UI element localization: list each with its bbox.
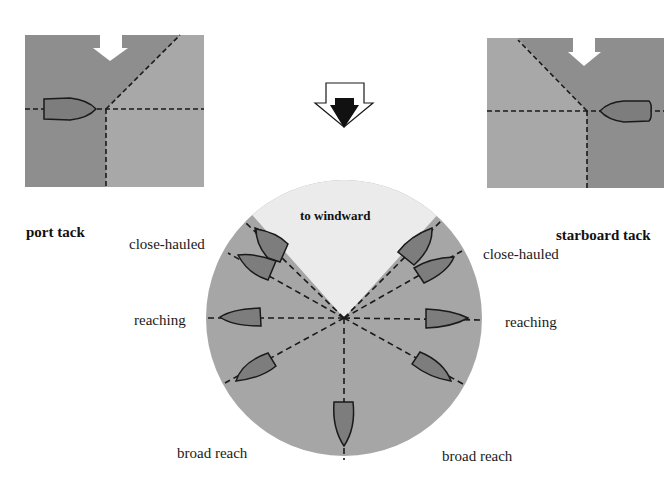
right-broad-reach-label: broad reach <box>442 448 512 465</box>
starboard-tack-label: starboard tack <box>556 227 651 244</box>
left-reaching-label: reaching <box>134 312 186 329</box>
right-close-hauled-label: close-hauled <box>483 246 559 263</box>
right-reaching-label: reaching <box>505 314 557 331</box>
left-broad-reach-label: broad reach <box>177 445 247 462</box>
diagram-canvas <box>0 0 664 489</box>
port-tack-panel <box>25 34 204 187</box>
windward-label: to windward <box>300 208 370 224</box>
starboard-tack-panel <box>487 37 664 188</box>
wind-direction-arrow-icon <box>315 83 373 128</box>
port-tack-label: port tack <box>26 224 85 241</box>
left-close-hauled-label: close-hauled <box>129 236 205 253</box>
